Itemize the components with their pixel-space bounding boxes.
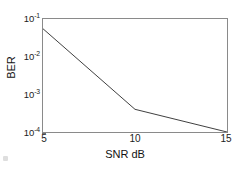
x-axis-title: SNR dB [0, 149, 250, 160]
y-axis-title: BER [6, 43, 17, 93]
y-tick-label-1e-1: 10-1 [24, 14, 40, 24]
y-tick-label-1e-4: 10-4 [24, 128, 40, 138]
y-tick-mantissa: 10 [24, 127, 34, 138]
y-tick-exponent: -1 [34, 12, 40, 19]
scan-artifact [3, 156, 8, 161]
x-tick-label-10: 10 [129, 134, 140, 144]
y-tick-exponent: -4 [34, 126, 40, 133]
data-line-svg [43, 19, 227, 132]
y-tick-label-1e-2: 10-2 [24, 52, 40, 62]
plot-area [42, 18, 228, 133]
ber-vs-snr-chart: 10-1 10-2 10-3 10-4 5 10 15 SNR dB BER [0, 0, 250, 171]
y-tick-mantissa: 10 [24, 51, 34, 62]
y-tick-exponent: -3 [34, 88, 40, 95]
y-tick-mantissa: 10 [24, 89, 34, 100]
y-tick-label-1e-3: 10-3 [24, 90, 40, 100]
x-tick-label-5: 5 [41, 134, 47, 144]
x-tick-label-15: 15 [220, 134, 231, 144]
y-tick-exponent: -2 [34, 50, 40, 57]
ber-data-line [43, 29, 227, 132]
y-tick-mantissa: 10 [24, 13, 34, 24]
